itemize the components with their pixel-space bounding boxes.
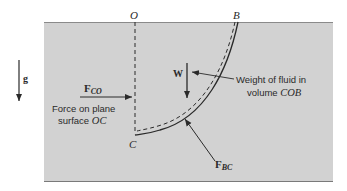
fluid-region <box>44 22 333 182</box>
point-o-label: O <box>130 9 138 21</box>
gravity-label: g <box>23 73 28 84</box>
point-b-label: B <box>233 9 240 21</box>
weight-label: W <box>173 68 183 79</box>
fco-caption-line2: surface OC <box>58 115 107 126</box>
weight-caption-line1: Weight of fluid in <box>236 74 306 85</box>
fco-caption-line1: Force on plane <box>52 103 115 114</box>
fluid-diagram: O B C g FCO Force on plane surface OC W … <box>0 0 347 191</box>
weight-caption-line2: volume COB <box>247 87 302 98</box>
point-c-label: C <box>129 138 137 150</box>
